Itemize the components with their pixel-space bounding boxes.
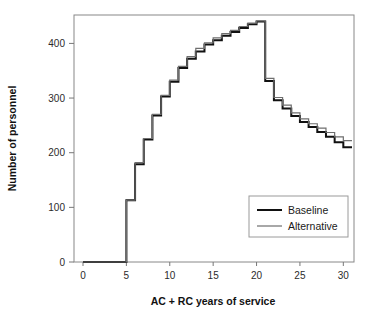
legend-label-alternative: Alternative: [288, 220, 338, 232]
legend-label-baseline: Baseline: [288, 204, 328, 216]
y-tick-label: 200: [48, 147, 65, 158]
x-axis-title: AC + RC years of service: [151, 295, 276, 307]
x-tick-label: 5: [124, 270, 130, 281]
x-tick-label: 20: [251, 270, 263, 281]
x-tick-label: 10: [164, 270, 176, 281]
x-tick-label: 15: [208, 270, 220, 281]
y-tick-label: 300: [48, 93, 65, 104]
chart-canvas: 0510152025300100200300400AC + RC years o…: [0, 0, 367, 319]
y-tick-label: 100: [48, 202, 65, 213]
y-axis-title: Number of personnel: [6, 86, 18, 192]
x-tick-label: 25: [294, 270, 306, 281]
y-tick-label: 0: [59, 257, 65, 268]
chart-figure: 0510152025300100200300400AC + RC years o…: [0, 0, 367, 319]
x-tick-label: 30: [338, 270, 350, 281]
x-tick-label: 0: [80, 270, 86, 281]
y-tick-label: 400: [48, 38, 65, 49]
